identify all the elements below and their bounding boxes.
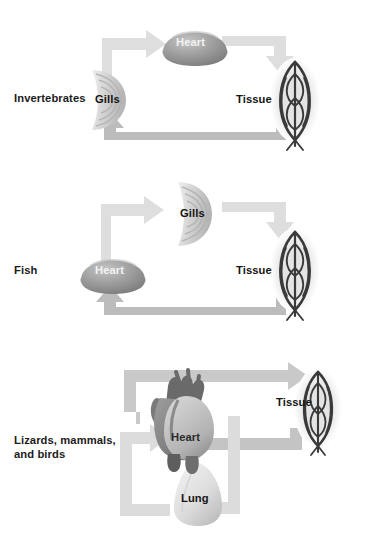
heart-dome-icon (162, 32, 228, 66)
heart-anatomical-icon (151, 370, 214, 474)
panel-invertebrates-stage: Invertebrates Heart Gills Tissue (0, 0, 365, 170)
group-label-amniotes: Lizards, mammals, and birds (14, 434, 116, 461)
gills-fan-icon (178, 182, 212, 246)
panel-invertebrates: Invertebrates Heart Gills Tissue (0, 0, 365, 170)
panel-fish: Fish Gills Heart Tissue (0, 170, 365, 350)
panel-invertebrates-graphics (0, 0, 365, 170)
panel-fish-graphics (0, 170, 365, 350)
lung-icon (174, 463, 222, 526)
panel-fish-stage: Fish Gills Heart Tissue (0, 170, 365, 350)
panel-amniotes: Lizards, mammals, and birds Heart Lung T… (0, 350, 365, 537)
arrow-tissue-to-gills (96, 112, 286, 140)
group-label-fish: Fish (14, 264, 37, 278)
panel-amniotes-stage: Lizards, mammals, and birds Heart Lung T… (0, 350, 365, 537)
heart-dome-icon (80, 260, 146, 294)
arrow-heart-to-gills (101, 196, 164, 268)
group-label-invertebrates: Invertebrates (14, 92, 86, 106)
gills-fan-icon (92, 70, 126, 130)
